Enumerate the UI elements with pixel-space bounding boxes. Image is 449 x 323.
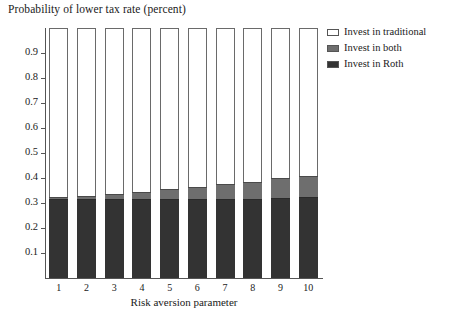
bar-segment-invest-in-both[interactable] [160,189,179,199]
bar-column[interactable] [49,28,68,278]
y-axis-tick-mark [41,153,45,154]
x-axis-tick-label: 1 [56,282,61,293]
y-axis-tick-mark [41,103,45,104]
legend-item[interactable]: Invest in both [327,40,447,56]
bar-segment-invest-in-roth[interactable] [77,199,96,278]
y-axis-tick-label: 0.6 [25,121,38,132]
x-axis-tick-label: 5 [167,282,172,293]
y-axis-tick-mark [41,253,45,254]
legend-item-label: Invest in both [344,43,402,54]
y-axis-tick-label: 0.7 [25,96,38,107]
bar-segment-invest-in-roth[interactable] [243,199,262,278]
bar-column[interactable] [77,28,96,278]
bar-segment-invest-in-roth[interactable] [271,198,290,278]
bar-column[interactable] [132,28,151,278]
y-axis-tick-label: 0.8 [25,71,38,82]
bar-column[interactable] [216,28,235,278]
plot-area: 0.10.20.30.40.50.60.70.80.9 [45,28,322,278]
legend-item-label: Invest in Roth [344,59,404,70]
y-axis-tick-label: 0.9 [25,46,38,57]
chart-legend: Invest in traditionalInvest in bothInves… [327,24,447,72]
y-axis-tick-label: 0.4 [25,171,38,182]
y-axis-tick-label: 0.2 [25,221,38,232]
legend-color-swatch [327,29,339,36]
bar-column[interactable] [105,28,124,278]
chart-title: Probability of lower tax rate (percent) [8,3,186,15]
y-axis-tick-label: 0.1 [25,246,38,257]
bar-segment-invest-in-roth[interactable] [188,199,207,278]
legend-color-swatch [327,45,339,52]
y-axis-tick-mark [41,53,45,54]
y-axis-tick-mark [41,228,45,229]
bar-column[interactable] [271,28,290,278]
legend-item-label: Invest in traditional [344,27,426,38]
bar-segment-invest-in-roth[interactable] [160,199,179,278]
y-axis-tick-mark [41,178,45,179]
bar-segment-invest-in-roth[interactable] [105,199,124,278]
bar-column[interactable] [299,28,318,278]
bar-segment-invest-in-both[interactable] [271,178,290,198]
y-axis-tick-mark [41,78,45,79]
stacked-bar-chart-figure: Probability of lower tax rate (percent) … [0,0,449,323]
x-axis-tick-label: 4 [139,282,144,293]
x-axis-tick-label: 8 [250,282,255,293]
bar-segment-invest-in-both[interactable] [243,182,262,200]
y-axis-tick-label: 0.3 [25,196,38,207]
x-axis-tick-label: 9 [278,282,283,293]
bar-segment-invest-in-both[interactable] [132,192,151,200]
bar-segment-invest-in-roth[interactable] [132,199,151,278]
x-axis-title: Risk aversion parameter [45,296,323,308]
legend-color-swatch [327,61,339,68]
bar-segment-invest-in-both[interactable] [299,176,318,197]
bar-segment-invest-in-roth[interactable] [216,199,235,278]
x-axis-tick-label: 6 [195,282,200,293]
bar-segment-invest-in-roth[interactable] [299,197,318,278]
legend-item[interactable]: Invest in Roth [327,56,447,72]
y-axis-tick-mark [41,203,45,204]
x-axis-tick-label: 3 [112,282,117,293]
bar-segment-invest-in-both[interactable] [188,187,207,200]
x-axis-tick-label: 7 [223,282,228,293]
legend-item[interactable]: Invest in traditional [327,24,447,40]
y-axis-tick-mark [41,128,45,129]
x-axis-tick-label: 10 [303,282,313,293]
x-axis-tick-label: 2 [84,282,89,293]
bar-column[interactable] [188,28,207,278]
x-axis-line [45,278,323,279]
y-axis-tick-label: 0.5 [25,146,38,157]
bar-column[interactable] [160,28,179,278]
bar-segment-invest-in-both[interactable] [216,184,235,199]
bar-segment-invest-in-roth[interactable] [49,199,68,278]
bar-column[interactable] [243,28,262,278]
